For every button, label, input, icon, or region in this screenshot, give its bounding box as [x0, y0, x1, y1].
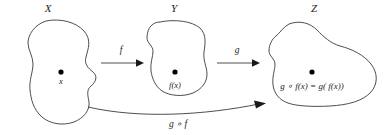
diagram-canvas: X Y Z x f(x) g ∘ f(x) = g( f(x)) f g g ∘… — [0, 0, 390, 135]
map-label-f: f — [120, 45, 124, 55]
map-label-g: g — [235, 45, 240, 55]
point-label-fx: f(x) — [169, 80, 181, 90]
set-label-y: Y — [171, 2, 179, 14]
point-dot-x — [58, 69, 63, 74]
point-label-composition-equation: g ∘ f(x) = g( f(x)) — [280, 81, 343, 91]
point-label-x: x — [58, 76, 63, 86]
point-dot-gfx — [309, 69, 314, 74]
arrow-head-g — [252, 59, 260, 66]
function-composition-diagram: X Y Z x f(x) g ∘ f(x) = g( f(x)) f g g ∘… — [0, 0, 390, 135]
set-label-x: X — [44, 2, 53, 14]
map-label-gof: g ∘ f — [169, 119, 189, 129]
set-blob-z — [269, 22, 376, 106]
point-dot-fx — [172, 69, 177, 74]
arrow-head-f — [136, 59, 144, 66]
arrow-curve-gof — [88, 104, 259, 114]
arrow-head-gof — [254, 101, 266, 109]
set-label-z: Z — [311, 2, 318, 14]
